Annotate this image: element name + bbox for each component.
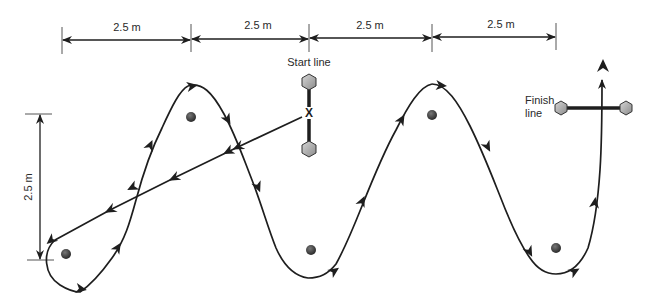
finish-hexagon-right (620, 101, 632, 115)
dimension-label-3: 2.5 m (356, 19, 384, 31)
start-line: Start line X (287, 56, 330, 157)
slalom-diagram: 2.5 m 2.5 m 2.5 m 2.5 m 2.5 m Start line… (0, 0, 656, 307)
dimension-label-4: 2.5 m (487, 18, 515, 30)
vertical-dimension: 2.5 m (22, 114, 54, 260)
cone-4 (427, 110, 437, 120)
finish-line: Finish line (525, 94, 632, 119)
vertical-dimension-label: 2.5 m (22, 173, 34, 201)
course-path (46, 80, 602, 292)
start-x-marker: X (305, 106, 313, 120)
cone-1 (61, 249, 71, 259)
finish-hexagon-left (555, 101, 567, 115)
cone-2 (186, 112, 196, 122)
cone-5 (551, 243, 561, 253)
start-hexagon-top (302, 74, 316, 90)
horizontal-dimensions: 2.5 m 2.5 m 2.5 m 2.5 m (62, 18, 556, 54)
finish-line-label-2: line (525, 107, 542, 119)
cones (61, 110, 561, 259)
dimension-label-2: 2.5 m (244, 19, 272, 31)
start-line-label: Start line (287, 56, 330, 68)
start-hexagon-bottom (302, 141, 316, 157)
dimension-label-1: 2.5 m (113, 21, 141, 33)
cone-3 (306, 245, 316, 255)
finish-line-label-1: Finish (525, 94, 554, 106)
